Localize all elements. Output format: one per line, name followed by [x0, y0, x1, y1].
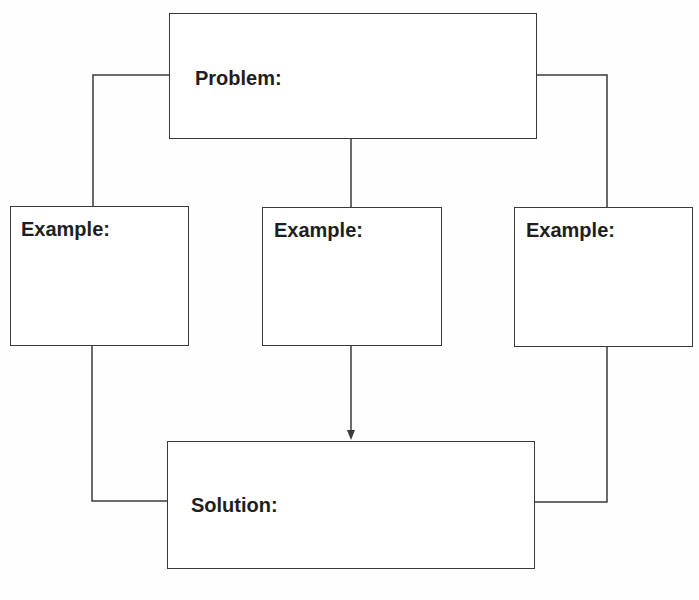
connector-problem-example-3 [536, 75, 607, 207]
example-label-1: Example: [21, 218, 110, 241]
connector-example-1-solution [92, 345, 167, 501]
problem-label: Problem: [195, 67, 282, 90]
example-box-2: Example: [262, 207, 442, 346]
example-box-3: Example: [514, 207, 693, 347]
example-label-3: Example: [526, 219, 615, 242]
solution-label: Solution: [191, 494, 278, 517]
connector-problem-example-1 [93, 75, 169, 207]
arrowhead-icon [347, 430, 355, 440]
diagram-canvas: Problem: Example: Example: Example: Solu… [0, 0, 699, 600]
solution-box: Solution: [167, 441, 535, 569]
problem-box: Problem: [169, 13, 537, 139]
connector-example-3-solution [534, 346, 607, 502]
example-box-1: Example: [10, 206, 189, 346]
example-label-2: Example: [274, 219, 363, 242]
